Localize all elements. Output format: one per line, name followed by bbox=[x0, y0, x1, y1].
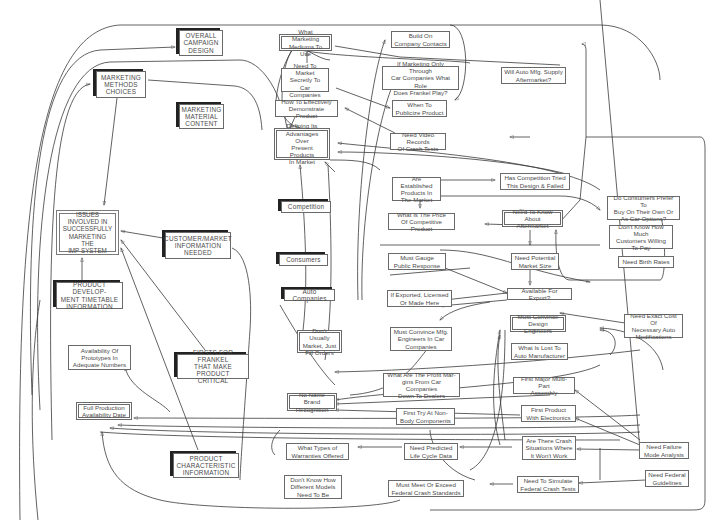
node-has-competition-tried: Has Competition Tried This Design & Fail… bbox=[500, 173, 570, 190]
node-when-to-publicize: When To Publicize Product bbox=[392, 100, 447, 117]
node-available-for-export: Available For Export? bbox=[507, 288, 572, 300]
node-must-gauge-response: Must Gauge Public Response bbox=[388, 253, 446, 270]
node-dont-know-models: Don't Know How Different Models Need To … bbox=[284, 475, 342, 499]
node-no-name-brand: No Name Brand Recognition bbox=[287, 393, 337, 411]
node-full-production-date: Full Production Availability Date bbox=[76, 402, 132, 420]
node-defining-advantages: Defining Its Advantages Over Present Pro… bbox=[274, 128, 330, 160]
node-competition: Competition bbox=[281, 201, 331, 213]
node-need-birth-rates: Need Birth Rates bbox=[618, 256, 674, 268]
node-what-marketing-mediums: What Marketing Mediums To Use bbox=[279, 34, 332, 51]
node-dont-usually-market: Don't Usually Market, Just Fill Orders bbox=[297, 330, 342, 353]
node-need-market-secretly: Need To Market Secretly To Car Companies bbox=[281, 68, 329, 92]
issue-map-diagram: OVERALL CAMPAIGN DESIGN MARKETING METHOD… bbox=[0, 0, 717, 522]
node-product-characteristic: PRODUCT CHARACTERISTIC INFORMATION bbox=[173, 453, 239, 478]
node-customer-market-info: CUSTOMER/MARKET INFORMATION NEEDED bbox=[165, 232, 231, 259]
node-must-convince-design: Must Convince Design Engineers bbox=[510, 315, 566, 332]
node-first-product-electronics: First Product With Electronics bbox=[521, 405, 576, 422]
node-need-failure-mode: Need Failure Mode Analysis bbox=[639, 442, 689, 459]
node-if-exported: If Exported, Licensed Or Made Here bbox=[387, 290, 452, 307]
node-dont-know-willing-pay: Don't Know How Much Customers Willing To… bbox=[609, 225, 673, 249]
node-need-exact-cost: Need Exact Cost Of Necessary Auto Modifi… bbox=[624, 314, 683, 338]
node-will-auto-mfg-supply: Will Auto Mfg. Supply Aftermarket? bbox=[501, 67, 566, 84]
node-must-meet-federal: Must Meet Or Exceed Federal Crash Standa… bbox=[388, 480, 464, 497]
node-price-competitive: What Is The Price Of Competitive Product bbox=[388, 213, 455, 230]
node-need-market-size: Need Potential Market Size bbox=[511, 253, 559, 270]
node-need-video-records: Need Video Records Of Crash Tests bbox=[390, 133, 446, 150]
node-crash-situations: Are There Crash Situations Where It Won'… bbox=[522, 436, 576, 460]
node-what-types-warranties: What Types of Warranties Offered bbox=[286, 443, 349, 460]
node-need-know-aftermarket: Need To Know About Aftermarket bbox=[502, 210, 563, 227]
node-need-predicted-life: Need Predicted Life Cycle Data bbox=[404, 443, 458, 460]
node-auto-companies: Auto Companies bbox=[284, 289, 335, 301]
node-profit-margins: What Are The Profit Mar- gins From Car C… bbox=[383, 373, 460, 397]
node-are-established-products: Are Established Products In The Market bbox=[392, 177, 441, 201]
node-marketing-methods-choices: MARKETING METHODS CHOICES bbox=[96, 71, 146, 98]
node-firsts-for-frankel: FIRSTS FOR FRANKEL THAT MAKE PRODUCT CRI… bbox=[177, 354, 249, 379]
node-marketing-material-content: MARKETING MATERIAL CONTENT bbox=[179, 104, 224, 129]
node-first-try-nonbody: First Try At Non- Body Components bbox=[396, 408, 455, 425]
node-consumers: Consumers bbox=[279, 254, 328, 266]
node-product-dev-timetable: PRODUCT DEVELOP- MENT TIMETABLE INFORMAT… bbox=[56, 282, 123, 309]
node-first-major-multipart: First Major Multi-Part Assembly bbox=[513, 377, 575, 394]
node-must-convince-mfg: Must Convince Mfg. Engineers In Car Comp… bbox=[390, 327, 452, 351]
node-what-is-lost: What Is Lost To Auto Manufacturer bbox=[511, 343, 568, 360]
node-need-simulate-federal: Need To Simulate Federal Crash Tests bbox=[517, 476, 579, 493]
node-consumers-prefer: Do Consumers Prefer To Buy On Their Own … bbox=[607, 196, 680, 220]
node-overall-campaign-design: OVERALL CAMPAIGN DESIGN bbox=[179, 30, 223, 56]
node-how-demonstrate: How To Effectively Demonstrate Product bbox=[275, 100, 338, 117]
node-build-on-contacts: Build On Company Contacts bbox=[391, 31, 450, 48]
node-need-federal-guidelines: Need Federal Guidelines bbox=[645, 470, 689, 487]
node-issues-central: ISSUES INVOLVED IN SUCCESSFULLY MARKETIN… bbox=[56, 210, 119, 255]
node-if-marketing-only: If Marketing Only Through Car Companies … bbox=[382, 66, 459, 90]
node-availability-prototypes: Availability Of Prototypes In Adequate N… bbox=[68, 345, 131, 370]
